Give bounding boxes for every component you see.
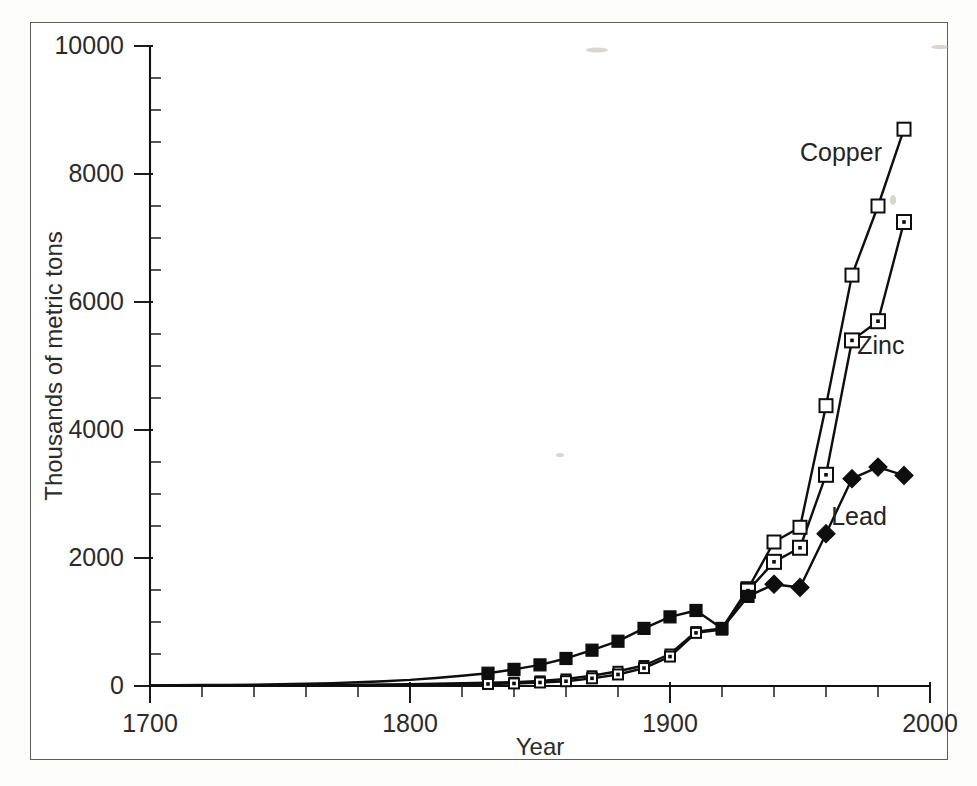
marker-open-square [794, 521, 807, 534]
series-line-zinc [150, 222, 904, 686]
series-lines [150, 129, 904, 686]
marker-center-dot [668, 655, 672, 659]
marker-center-dot [486, 682, 490, 686]
marker-center-dot [876, 319, 880, 323]
y-tick-label: 10000 [54, 31, 124, 59]
marker-filled-diamond [765, 575, 783, 593]
series-line-lead [150, 467, 904, 685]
y-axis-minor-ticks [150, 78, 161, 654]
marker-filled-square [742, 590, 754, 602]
series-markers [482, 123, 913, 689]
marker-filled-diamond [791, 578, 809, 596]
marker-filled-square [612, 635, 624, 647]
marker-center-dot [824, 473, 828, 477]
marker-center-dot [798, 546, 802, 550]
marker-center-dot [902, 220, 906, 224]
x-tick-label: 2000 [902, 709, 958, 737]
series-label-lead: Lead [831, 502, 887, 530]
scanned-figure-page: 0200040006000800010000 1700180019002000 … [0, 0, 977, 786]
marker-open-square [820, 399, 833, 412]
series-label-copper: Copper [800, 138, 882, 166]
marker-filled-square [664, 611, 676, 623]
marker-center-dot [512, 682, 516, 686]
series-markers-copper [484, 123, 911, 688]
marker-filled-square [560, 652, 572, 664]
marker-center-dot [538, 681, 542, 685]
marker-open-square [846, 269, 859, 282]
marker-open-square [768, 536, 781, 549]
marker-filled-diamond [895, 466, 913, 484]
marker-center-dot [772, 560, 776, 564]
x-axis-title: Year [516, 733, 565, 760]
y-axis-title: Thousands of metric tons [40, 231, 67, 500]
scan-artifacts [556, 45, 949, 457]
series-line-copper [150, 129, 904, 685]
series-markers-lead [482, 458, 913, 679]
marker-open-square [898, 123, 911, 136]
marker-center-dot [850, 339, 854, 343]
marker-filled-square [638, 622, 650, 634]
marker-filled-square [534, 659, 546, 671]
marker-center-dot [590, 677, 594, 681]
marker-center-dot [694, 631, 698, 635]
series-markers-zinc [483, 215, 911, 689]
marker-center-dot [564, 679, 568, 683]
y-tick-label: 8000 [68, 159, 124, 187]
marker-filled-square [690, 604, 702, 616]
y-tick-label: 4000 [68, 415, 124, 443]
y-tick-label: 2000 [68, 543, 124, 571]
marker-center-dot [616, 673, 620, 677]
y-tick-label: 6000 [68, 287, 124, 315]
marker-filled-diamond [843, 470, 861, 488]
marker-center-dot [642, 666, 646, 670]
marker-open-square [872, 200, 885, 213]
marker-filled-square [716, 622, 728, 634]
marker-filled-diamond [869, 458, 887, 476]
x-tick-label: 1900 [642, 709, 698, 737]
marker-filled-square [586, 644, 598, 656]
x-tick-label: 1700 [122, 709, 178, 737]
line-chart-figure: 0200040006000800010000 1700180019002000 … [0, 0, 977, 786]
x-tick-label: 1800 [382, 709, 438, 737]
series-label-zinc: Zinc [857, 331, 904, 359]
y-tick-label: 0 [110, 671, 124, 699]
marker-filled-square [508, 663, 520, 675]
marker-filled-square [482, 667, 494, 679]
